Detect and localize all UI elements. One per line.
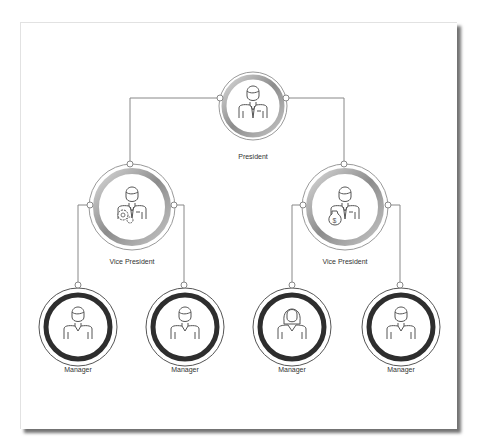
node-manager-1[interactable]: [39, 288, 117, 366]
node-manager-2[interactable]: [146, 288, 224, 366]
node-vp-operations[interactable]: [89, 164, 175, 250]
label-president: President: [238, 153, 268, 160]
svg-text:$: $: [333, 217, 337, 224]
label-manager-4: Manager: [387, 366, 415, 373]
org-chart: $: [0, 0, 482, 448]
node-manager-3[interactable]: [253, 288, 331, 366]
label-vp-finance: Vice President: [322, 258, 367, 265]
label-manager-2: Manager: [171, 366, 199, 373]
node-manager-4[interactable]: [362, 288, 440, 366]
node-president[interactable]: [219, 72, 287, 140]
label-manager-1: Manager: [64, 366, 92, 373]
label-vp-operations: Vice President: [109, 258, 154, 265]
node-vp-finance[interactable]: $: [302, 164, 388, 250]
label-manager-3: Manager: [278, 366, 306, 373]
